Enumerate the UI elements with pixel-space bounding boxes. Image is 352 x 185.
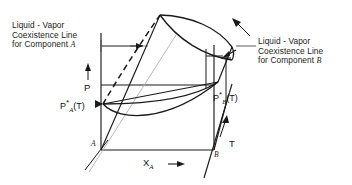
right-caption-component-symbol: B — [317, 56, 322, 65]
left-caption: Liquid - Vapor Coexistence Line for Comp… — [12, 21, 77, 50]
right-caption-line3-prefix: for Component — [258, 55, 317, 65]
left-caption-component-symbol: A — [71, 40, 76, 49]
p-axis-label: P — [84, 82, 90, 93]
depth-edge-left — [101, 15, 160, 150]
p-star-b-label: P*B(T) — [213, 90, 238, 105]
left-leader-arrowhead — [136, 43, 143, 49]
origin-depth-stub — [85, 140, 108, 170]
right-caption-line3: for Component B — [258, 56, 323, 66]
lower-coexistence-loop — [103, 82, 218, 116]
p-star-a-label: P*A(T) — [60, 98, 85, 113]
x-axis-arrow — [168, 161, 185, 167]
x-axis-label: XA — [143, 157, 154, 170]
left-caption-line3: for Component A — [12, 40, 77, 50]
upper-coexistence-loop — [160, 15, 234, 60]
lower-loop-lower-branch — [103, 82, 218, 116]
depth-edges — [85, 15, 232, 178]
corner-label-a: A — [91, 139, 96, 148]
pa-arrowhead — [95, 100, 103, 108]
figure-canvas: Liquid - Vapor Coexistence Line for Comp… — [0, 0, 352, 185]
component-a-coexistence-line — [103, 15, 160, 104]
upper-loop-upper-branch — [160, 15, 232, 47]
corner-label-b: B — [214, 150, 219, 159]
x-arrowhead — [177, 161, 185, 167]
p-star-b-argument: (T) — [226, 93, 238, 103]
left-caption-line3-prefix: for Component — [12, 39, 71, 49]
p-star-a-argument: (T) — [73, 101, 85, 111]
component-b-line — [218, 47, 232, 82]
right-caption: Liquid - Vapor Coexistence Line for Comp… — [258, 37, 323, 66]
p-arrowhead — [85, 63, 91, 71]
p-axis-arrow — [85, 63, 91, 80]
component-a-line-dashed — [103, 15, 160, 104]
right-caption-leader — [222, 18, 256, 58]
t-axis-label: T — [229, 138, 235, 149]
upper-loop-close — [232, 47, 234, 60]
pa-leader — [95, 100, 103, 108]
component-b-coexistence-line — [218, 47, 232, 82]
x-axis-label-subscript: A — [149, 163, 153, 170]
right-leader-arrowhead — [222, 51, 230, 58]
